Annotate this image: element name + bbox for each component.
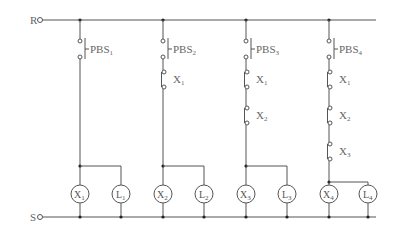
lamp-l1: L1 — [112, 185, 130, 203]
circuit-diagram: RSPBS1X1L1PBS2X1X2L2PBS3X1X2X3L3PBS4X1X2… — [0, 0, 396, 230]
rung-2: PBS2X1X2L2 — [154, 18, 213, 218]
rung-3: PBS3X1X2X3L3 — [237, 18, 296, 218]
contact-label: X2 — [339, 109, 351, 123]
push-button-switch-4: PBS4 — [327, 38, 363, 59]
rung-4: PBS4X1X2X3X4L4 — [320, 18, 377, 218]
interlock-contact-x2: X2 — [328, 106, 351, 125]
relay-coil-x4: X4 — [320, 185, 338, 203]
lamp-l2: L2 — [195, 185, 213, 203]
contact-label: X1 — [256, 73, 268, 87]
rail-label-s: S — [30, 211, 36, 223]
contact-label: X3 — [339, 145, 351, 159]
junction-dot — [366, 215, 369, 218]
interlock-contact-x1: X1 — [245, 70, 268, 89]
interlock-contact-x1: X1 — [162, 70, 185, 89]
junction-dot — [202, 215, 205, 218]
interlock-contact-x1: X1 — [328, 70, 351, 89]
relay-coil-x2: X2 — [154, 185, 172, 203]
contact-label: X1 — [339, 73, 351, 87]
push-button-switch-3: PBS3 — [244, 38, 280, 59]
junction-dot — [119, 215, 122, 218]
junction-dot — [78, 215, 81, 218]
rail-label-r: R — [30, 14, 38, 26]
interlock-contact-x2: X2 — [245, 106, 268, 125]
junction-dot — [327, 215, 330, 218]
relay-coil-x3: X3 — [237, 185, 255, 203]
rung-1: PBS1X1L1 — [71, 18, 130, 218]
push-button-switch-2: PBS2 — [161, 38, 197, 59]
junction-dot — [244, 215, 247, 218]
contact-label: X1 — [173, 73, 185, 87]
lamp-l3: L3 — [278, 185, 296, 203]
contact-label: X2 — [256, 109, 268, 123]
push-button-switch-1: PBS1 — [78, 38, 114, 59]
interlock-contact-x3: X3 — [328, 142, 351, 161]
terminal-s — [38, 215, 43, 220]
relay-coil-x1: X1 — [71, 185, 89, 203]
pbs-label: PBS1 — [90, 43, 114, 57]
terminal-r — [38, 18, 43, 23]
junction-dot — [161, 215, 164, 218]
junction-dot — [285, 215, 288, 218]
lamp-l4: L4 — [359, 185, 377, 203]
pbs-label: PBS2 — [173, 43, 197, 57]
pbs-label: PBS3 — [256, 43, 280, 57]
pbs-label: PBS4 — [339, 43, 363, 57]
